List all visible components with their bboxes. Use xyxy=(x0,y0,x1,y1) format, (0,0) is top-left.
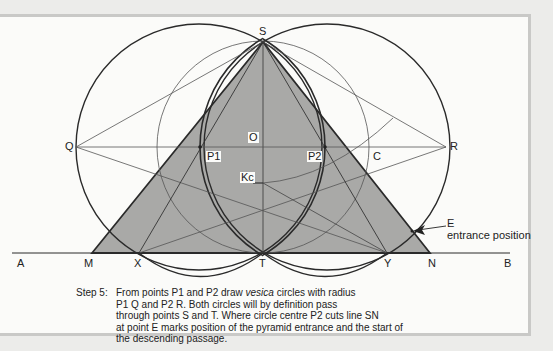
caption-line3: through points S and T. Where circle cen… xyxy=(76,310,403,322)
label-b: B xyxy=(504,258,511,269)
pyramid-triangle xyxy=(92,42,430,253)
caption-line1-italic: vesica xyxy=(246,287,274,298)
label-c: C xyxy=(373,151,381,162)
caption-line5: the descending passage. xyxy=(76,333,403,345)
label-t: T xyxy=(259,258,266,269)
label-e: E xyxy=(447,218,454,229)
label-p1: P1 xyxy=(206,151,221,162)
label-q: Q xyxy=(65,141,74,152)
label-x: X xyxy=(134,258,141,269)
caption: Step 5:From points P1 and P2 draw vesica… xyxy=(76,287,403,345)
label-entrance-position: entrance position xyxy=(447,230,531,241)
label-r: R xyxy=(450,141,458,152)
caption-step: Step 5: xyxy=(76,287,116,299)
label-s: S xyxy=(259,26,266,37)
label-m: M xyxy=(84,258,93,269)
label-a: A xyxy=(17,258,24,269)
label-p2: P2 xyxy=(307,151,322,162)
caption-line2: P1 Q and P2 R. Both circles will by defi… xyxy=(76,299,403,311)
label-y: Y xyxy=(384,258,391,269)
label-kc: Kc xyxy=(240,172,255,183)
caption-line1-post: circles with radius xyxy=(274,287,356,298)
caption-line4: at point E marks position of the pyramid… xyxy=(76,322,403,334)
label-o: O xyxy=(248,132,259,143)
label-n: N xyxy=(428,258,436,269)
caption-line1-pre: From points P1 and P2 draw xyxy=(116,287,246,298)
